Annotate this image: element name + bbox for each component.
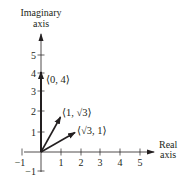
svg-text:5: 5	[138, 157, 143, 168]
svg-text:2: 2	[31, 106, 36, 117]
vector-1-sqrt3-label: ⟨1, √3⟩	[62, 107, 92, 118]
svg-text:2: 2	[79, 157, 84, 168]
svg-text:1: 1	[59, 157, 64, 168]
svg-text:4: 4	[118, 157, 123, 168]
y-tick-labels: 5 4 3 2 1 −1	[25, 50, 36, 177]
svg-text:3: 3	[98, 157, 103, 168]
imaginary-axis-label-line2: axis	[33, 18, 49, 29]
complex-plane-diagram: −1 1 2 3 4 5 5 4 3 2 1 −1 Imaginary axis…	[0, 0, 185, 186]
svg-text:−1: −1	[25, 166, 36, 177]
svg-text:3: 3	[31, 86, 36, 97]
imaginary-axis-label-line1: Imaginary	[20, 7, 61, 18]
svg-text:1: 1	[31, 127, 36, 138]
svg-text:5: 5	[31, 50, 36, 61]
vector-sqrt3-1-label: ⟨√3, 1⟩	[77, 125, 107, 136]
real-axis-label-line2: axis	[160, 149, 176, 160]
svg-text:−1: −1	[15, 157, 26, 168]
vector-0-4-label: ⟨0, 4⟩	[46, 74, 70, 85]
svg-text:4: 4	[31, 68, 36, 79]
